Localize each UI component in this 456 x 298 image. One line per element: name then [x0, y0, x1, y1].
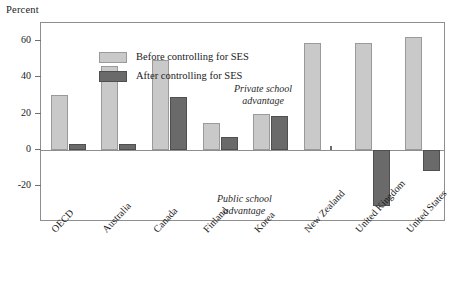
legend-item-before: Before controlling for SES: [99, 49, 249, 65]
y-axis-tick: [35, 149, 41, 150]
plot-area: Before controlling for SES After control…: [40, 22, 445, 221]
legend-label-before: Before controlling for SES: [136, 52, 249, 63]
y-axis-tick-label: 20: [0, 107, 31, 118]
bar: [304, 43, 321, 150]
legend-swatch-before-icon: [99, 52, 127, 63]
y-axis-tick: [35, 185, 41, 186]
chart-legend: Before controlling for SES After control…: [99, 49, 249, 87]
bar: [221, 137, 238, 150]
legend-label-after: After controlling for SES: [136, 71, 242, 82]
bar: [355, 43, 372, 150]
y-axis-tick-label: 60: [0, 34, 31, 45]
bar: [203, 123, 220, 149]
legend-swatch-after-icon: [99, 71, 127, 82]
bar: [119, 144, 136, 149]
y-axis-tick: [35, 76, 41, 77]
annotation-public-line1: Public school: [217, 193, 272, 205]
y-axis-tick: [35, 40, 41, 41]
bar: [69, 144, 86, 149]
y-axis-tick-label: 0: [0, 143, 31, 154]
annotation-private-line2: advantage: [234, 95, 292, 107]
annotation-private-school-advantage: Private school advantage: [234, 83, 292, 107]
bar: [330, 146, 332, 150]
y-axis-tick-label: 40: [0, 70, 31, 81]
y-axis-title: Percent: [6, 4, 39, 15]
chart-container: Percent Before controlling for SES After…: [0, 0, 456, 298]
bar: [170, 97, 187, 150]
bar: [271, 116, 288, 150]
bar: [405, 37, 422, 150]
y-axis-tick-label: -20: [0, 179, 31, 190]
bar: [423, 150, 440, 172]
y-axis-tick: [35, 113, 41, 114]
annotation-private-line1: Private school: [234, 83, 292, 95]
bar: [51, 95, 68, 149]
legend-item-after: After controlling for SES: [99, 68, 249, 84]
bar: [253, 114, 270, 149]
